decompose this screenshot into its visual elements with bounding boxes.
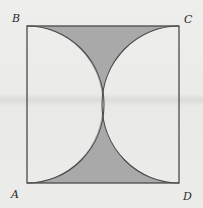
vertex-label-a: A: [11, 189, 19, 200]
square-with-arcs-figure: [0, 0, 203, 208]
vertex-label-d: D: [183, 191, 192, 202]
vertex-label-b: B: [12, 13, 20, 24]
vertex-label-c: C: [184, 14, 192, 25]
diagram-canvas: B C A D: [0, 0, 203, 208]
shaded-region: [27, 26, 179, 183]
